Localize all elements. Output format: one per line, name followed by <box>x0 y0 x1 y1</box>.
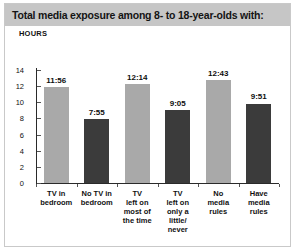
y-axis-tick <box>37 183 41 184</box>
bar-value-label-4: 9:05 <box>158 99 198 108</box>
x-axis-label-3: TV left on most of the time <box>117 189 158 225</box>
bar-5 <box>206 80 231 183</box>
y-axis-tick-label: 14 <box>2 66 24 75</box>
y-axis-tick-label: 6 <box>2 131 24 140</box>
y-axis-tick-label: 0 <box>2 179 24 188</box>
y-axis-unit-label: HOURS <box>19 29 47 38</box>
bar-4 <box>165 110 190 183</box>
y-axis-tick <box>37 118 41 119</box>
x-axis-tick <box>239 184 240 187</box>
x-axis-tick <box>198 184 199 187</box>
y-axis-tick-label: 12 <box>2 82 24 91</box>
y-axis-tick <box>37 151 41 152</box>
bar-value-label-2: 7:55 <box>77 108 117 117</box>
y-axis-tick-label: 10 <box>2 98 24 107</box>
x-axis-label-6: Have media rules <box>239 189 280 216</box>
x-axis-label-4: TV left on only a little/ never <box>158 189 199 234</box>
x-axis-label-2: No TV in bedroom <box>77 189 118 207</box>
chart-title-band: Total media exposure among 8- to 18-year… <box>5 4 290 26</box>
x-axis-label-1: TV in bedroom <box>36 189 77 207</box>
y-axis-tick <box>37 167 41 168</box>
page-title: Total media exposure among 8- to 18-year… <box>5 9 264 21</box>
x-axis-label-5: No media rules <box>198 189 239 216</box>
bar-6 <box>246 104 271 184</box>
bar-3 <box>125 84 150 183</box>
y-axis-tick <box>37 70 41 71</box>
x-axis-tick <box>36 184 37 187</box>
bar-value-label-3: 12:14 <box>117 73 157 82</box>
bar-value-label-6: 9:51 <box>239 92 279 101</box>
y-axis-tick <box>37 102 41 103</box>
y-axis-tick <box>37 135 41 136</box>
plot-area: HOURS 02468101214 11:567:5512:149:0512:4… <box>5 26 290 246</box>
bar-1 <box>44 87 69 183</box>
x-axis-tick <box>77 184 78 187</box>
x-axis-tick <box>158 184 159 187</box>
y-axis-tick-label: 4 <box>2 147 24 156</box>
bar-2 <box>84 119 109 183</box>
bar-value-label-5: 12:43 <box>198 69 238 78</box>
bar-value-label-1: 11:56 <box>36 76 76 85</box>
x-axis-tick <box>117 184 118 187</box>
y-axis-tick-label: 8 <box>2 114 24 123</box>
y-axis-tick-label: 2 <box>2 163 24 172</box>
y-axis-tick <box>37 86 41 87</box>
chart-figure: Total media exposure among 8- to 18-year… <box>0 0 295 250</box>
x-axis-tick <box>279 184 280 187</box>
